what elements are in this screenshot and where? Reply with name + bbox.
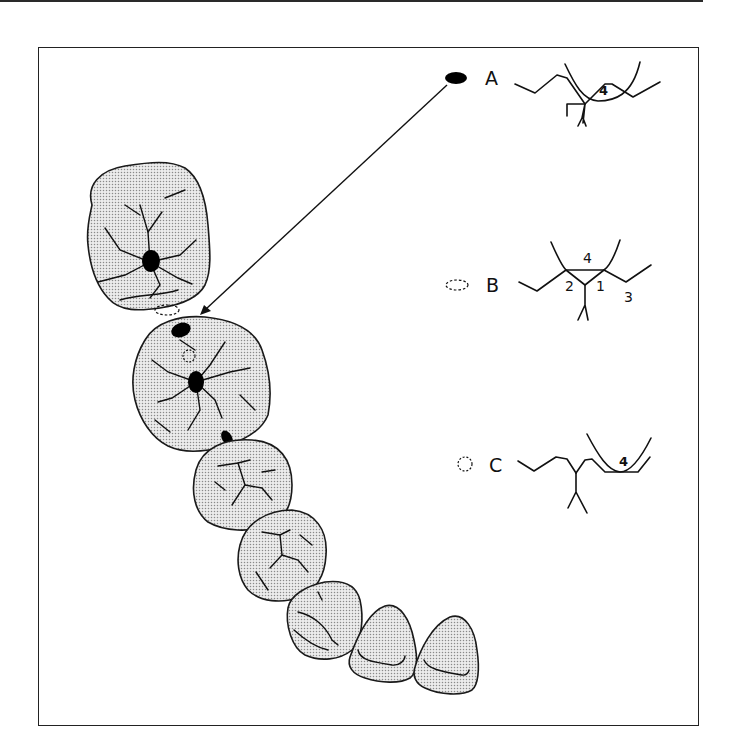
- contact-a-marker: [188, 371, 204, 393]
- dashed-ellipse-icon: [446, 280, 468, 290]
- tooth-first-molar: [133, 317, 270, 452]
- cusp-number-3: 3: [624, 289, 633, 305]
- cusp-schematic-c: [518, 434, 651, 513]
- cusp-number-1: 1: [596, 278, 605, 294]
- tooth-central-incisor: [414, 616, 478, 694]
- legend-b-label: B: [486, 274, 499, 296]
- contact-a-marker: [142, 250, 160, 272]
- cusp-number-4: 4: [599, 83, 608, 98]
- cusp-number-2: 2: [565, 278, 574, 294]
- cusp-number-4: 4: [619, 454, 628, 469]
- legend-a-label: A: [485, 67, 498, 89]
- legend-b: B 4 2 1 3: [446, 240, 651, 320]
- tooth-canine: [287, 582, 362, 660]
- dashed-circle-icon: [458, 457, 472, 471]
- legend-c: C 4: [458, 434, 651, 513]
- dental-diagram: A 4 B 4 2 1 3 C 4: [0, 0, 729, 744]
- contact-arrow: [200, 85, 447, 315]
- cusp-schematic-a: [515, 62, 660, 126]
- tooth-second-molar: [87, 163, 209, 316]
- legend-a: A 4: [445, 62, 660, 126]
- solid-ellipse-icon: [445, 72, 467, 84]
- legend-c-label: C: [489, 454, 502, 476]
- cusp-number-4: 4: [583, 250, 592, 266]
